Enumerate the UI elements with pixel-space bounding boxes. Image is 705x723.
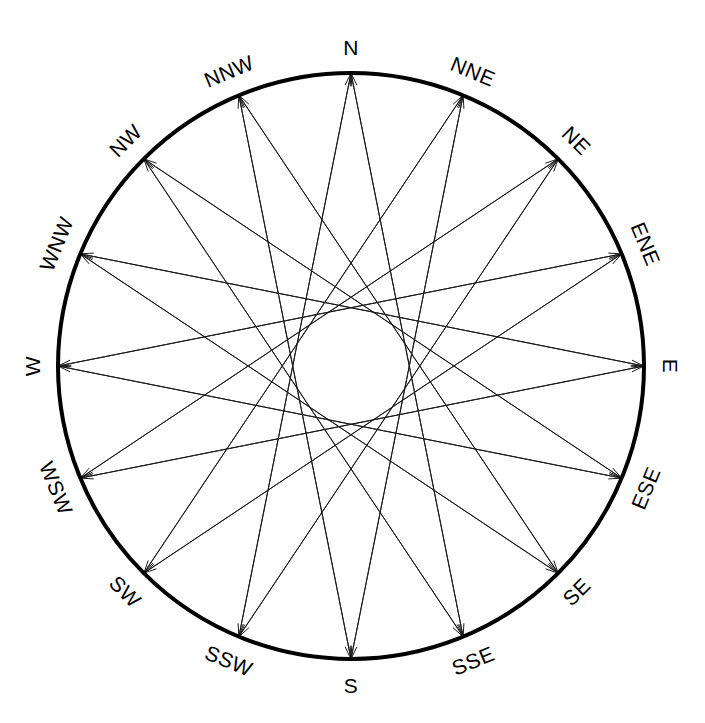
compass-label-sse: SSE <box>449 642 498 680</box>
compass-label-ne: NE <box>558 122 596 160</box>
compass-label-n: N <box>343 36 359 59</box>
chord-chords-step-9-W-to-ESE <box>58 366 622 479</box>
compass-svg-canvas: NNNENEENEEESESESSESSSWSWWSWWWNWNWNNW <box>0 0 705 723</box>
compass-label-nne: NNE <box>448 52 499 91</box>
compass-label-se: SE <box>558 573 595 610</box>
compass-label-ese: ESE <box>627 464 665 513</box>
chord-chords-step-9-E-to-WNW <box>80 253 644 366</box>
compass-label-layer: NNNENEENEEESESESSESSSWSWWSWWWNWNWNNW <box>21 36 682 697</box>
compass-label-nnw: NNW <box>201 51 258 92</box>
compass-label-wsw: WSW <box>35 458 77 518</box>
compass-label-nw: NW <box>105 120 147 162</box>
compass-label-ene: ENE <box>627 219 665 269</box>
compass-label-s: S <box>344 674 359 697</box>
compass-diagram: NNNENEENEEESESESSESSSWSWWSWWWNWNWNNW <box>0 0 705 723</box>
compass-label-sw: SW <box>105 571 146 612</box>
compass-label-wnw: WNW <box>35 214 78 275</box>
chord-layer <box>58 73 644 659</box>
compass-label-w: W <box>21 356 44 376</box>
chord-chords-step-9-S-to-NNE <box>351 95 464 659</box>
compass-label-e: E <box>659 359 682 374</box>
chord-chords-step-9-N-to-SSW <box>238 73 351 637</box>
compass-label-ssw: SSW <box>202 641 256 681</box>
